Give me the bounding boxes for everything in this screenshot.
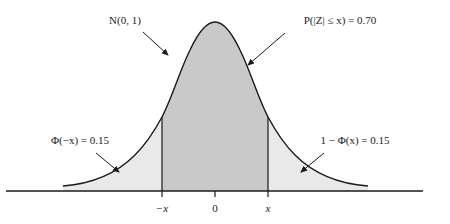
normal-distribution-diagram: −x 0 x N(0, 1) P(|Z| ≤ x) = 0.70 Φ(−x) =… — [0, 0, 450, 224]
center-prob-label: P(|Z| ≤ x) = 0.70 — [304, 14, 377, 27]
left-tail-region — [63, 117, 162, 191]
right-tail-label: 1 − Φ(x) = 0.15 — [320, 134, 390, 147]
tick-pos-x: x — [265, 202, 271, 214]
tick-zero: 0 — [212, 202, 218, 214]
left-tail-label: Φ(−x) = 0.15 — [51, 134, 110, 147]
distribution-arrow — [143, 32, 168, 55]
right-tail-region — [268, 117, 368, 191]
center-prob-arrow — [248, 33, 285, 65]
tick-neg-x: −x — [156, 202, 168, 214]
distribution-label: N(0, 1) — [109, 14, 141, 27]
left-tail-arrow — [96, 153, 119, 172]
center-region — [162, 22, 268, 191]
